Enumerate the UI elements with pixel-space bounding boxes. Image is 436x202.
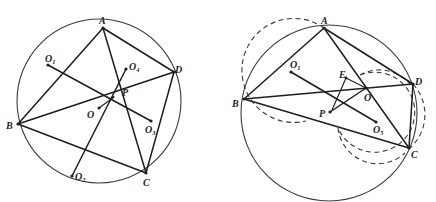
left-label-O: O [87, 109, 94, 120]
right-figure: A B C D E O P O1 O5 [231, 15, 425, 201]
left-point-A [101, 26, 104, 29]
left-point-O3 [149, 119, 152, 122]
left-label-O3: O3 [145, 124, 156, 136]
right-point-P [364, 86, 367, 89]
right-point-O [328, 110, 331, 113]
right-label-P: O [364, 92, 371, 103]
right-point-O1 [289, 70, 292, 73]
left-segment-O2-O4 [72, 69, 126, 176]
right-dashed-circle-ABP [242, 18, 324, 122]
right-point-B [242, 97, 245, 100]
left-segment-O1-O3 [48, 65, 151, 121]
left-figure: A B C D O P O1 O2 O3 O4 [5, 15, 182, 188]
right-segment-AD [324, 28, 413, 84]
right-segment-BD [244, 84, 413, 99]
right-point-A [322, 26, 325, 29]
right-label-O: P [319, 108, 326, 119]
right-label-O5: O5 [373, 124, 384, 136]
right-label-E: E [338, 69, 346, 80]
left-label-O1: O1 [45, 53, 55, 65]
left-label-P: P [122, 87, 129, 98]
left-label-C: C [143, 177, 150, 188]
left-circumcircle [17, 19, 181, 183]
left-label-A: A [98, 15, 106, 26]
left-label-O4: O4 [129, 61, 140, 73]
right-segment-BC [244, 99, 409, 148]
left-point-O2 [70, 174, 73, 177]
geometry-figure: A B C D O P O1 O2 O3 O4 [0, 0, 436, 202]
left-point-C [144, 171, 147, 174]
left-label-B: B [5, 120, 13, 131]
right-label-A: A [320, 15, 328, 26]
left-point-O4 [124, 67, 127, 70]
left-segment-BC [18, 124, 146, 173]
right-label-O1: O1 [290, 59, 300, 71]
right-label-D: D [414, 76, 422, 87]
left-point-O [97, 106, 100, 109]
right-label-C: C [411, 149, 418, 160]
left-segment-DC [146, 72, 174, 173]
right-segment-DC [409, 84, 413, 148]
left-label-D: D [174, 64, 182, 75]
left-label-O2: O2 [75, 171, 86, 183]
left-point-P [112, 96, 115, 99]
left-point-B [16, 122, 19, 125]
right-label-B: B [231, 98, 239, 109]
